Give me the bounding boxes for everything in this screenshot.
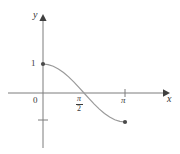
origin-label: 0	[33, 96, 38, 105]
x-axis-label: x	[167, 94, 171, 104]
y-axis-label: y	[33, 10, 37, 20]
fraction-denominator: 2	[77, 105, 81, 113]
plot-canvas	[0, 0, 180, 154]
cosine-graph-figure: y x 1 0 π 2 π	[0, 0, 180, 154]
y-tick-label-one: 1	[31, 59, 36, 68]
fraction-numerator: π	[77, 95, 81, 103]
y-axis-arrowhead	[39, 14, 46, 21]
x-tick-label-pi-over-two: π 2	[73, 95, 85, 113]
x-tick-label-pi: π	[121, 96, 126, 105]
curve-end-point	[123, 120, 127, 124]
curve-start-point	[41, 62, 45, 66]
